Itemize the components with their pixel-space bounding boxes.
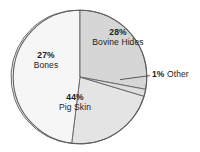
pie-slice-bones[interactable]	[11, 10, 80, 143]
pie-chart: 28% Bovine Hides 27% Bones 44% Pig Skin …	[0, 0, 200, 152]
pie-chart-svg	[0, 0, 200, 152]
